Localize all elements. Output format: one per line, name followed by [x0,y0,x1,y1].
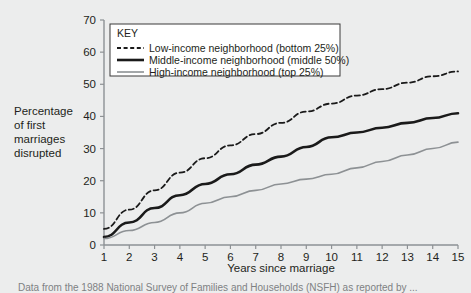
legend-label-0: Low-income neighborhood (bottom 25%) [149,42,339,54]
x-axis-tick-label: 12 [376,251,389,263]
y-axis-label-line: Percentage [14,105,73,117]
figure-caption: Data from the 1988 National Survey of Fa… [18,282,464,293]
y-axis-tick-label: 20 [83,175,96,187]
y-axis-tick-label: 30 [83,143,96,155]
x-axis-title: Years since marriage [227,262,335,274]
x-axis-tick-label: 5 [202,251,208,263]
x-axis-tick-label: 3 [151,251,157,263]
x-axis-tick-label: 14 [426,251,439,263]
x-axis-tick-label: 11 [351,251,363,263]
y-axis-tick-label: 70 [83,14,96,26]
legend-label-1: Middle-income neighborhood (middle 50%) [149,54,349,66]
x-axis-tick-label: 4 [177,251,184,263]
x-axis-tick-label: 2 [126,251,132,263]
y-axis-tick-label: 0 [90,239,96,251]
y-axis-tick-label: 50 [83,78,96,90]
y-axis-label-line: disrupted [14,147,61,159]
legend-label-2: High-income neighborhood (top 25%) [149,66,324,78]
y-axis-tick-label: 40 [83,110,96,122]
y-axis-label-line: marriages [14,133,65,145]
y-axis-label-line: of first [14,119,46,131]
y-axis-tick-label: 60 [83,46,96,58]
legend-title: KEY [117,27,138,39]
x-axis-tick-label: 1 [101,251,107,263]
y-axis-tick-label: 10 [83,207,96,219]
x-axis-tick-label: 15 [452,251,465,263]
chart-legend: KEYLow-income neighborhood (bottom 25%)M… [110,24,349,78]
x-axis-tick-label: 13 [401,251,414,263]
